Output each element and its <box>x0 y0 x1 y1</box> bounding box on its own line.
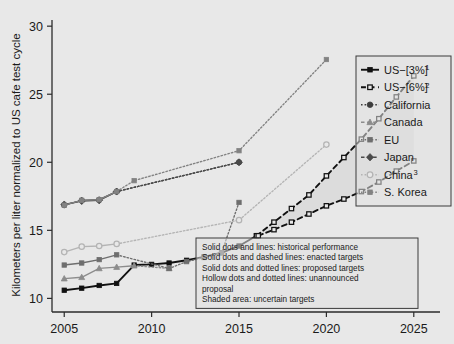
data-point-marker <box>289 206 293 210</box>
data-point-marker <box>80 286 84 290</box>
data-point-marker <box>237 200 241 204</box>
notes-line: Shaded area: uncertain targets <box>202 295 314 304</box>
data-point-marker <box>97 283 101 287</box>
series-line-segment <box>117 145 327 244</box>
notes-line: Solid dots and dashed lines: enacted tar… <box>202 253 363 262</box>
data-point-marker <box>132 178 136 182</box>
data-point-marker <box>324 174 328 178</box>
chart-figure: 101520253020052010201520202025Kilometers… <box>0 0 454 344</box>
data-point-marker <box>324 142 329 147</box>
data-point-marker <box>184 259 188 263</box>
data-point-marker <box>368 190 373 195</box>
x-tick-label: 2005 <box>50 322 78 336</box>
notes-line: proposal <box>202 285 234 294</box>
data-point-marker <box>368 137 373 142</box>
legend-item-label: China <box>384 169 414 181</box>
y-tick-label: 15 <box>29 224 43 238</box>
data-point-marker <box>367 172 373 178</box>
y-axis-title: Kilometers per liter normalized to US ca… <box>10 33 22 296</box>
data-point-marker <box>236 159 243 166</box>
data-point-marker <box>289 220 293 224</box>
data-point-marker <box>114 281 118 285</box>
data-point-marker <box>342 155 346 159</box>
data-point-marker <box>324 57 328 61</box>
legend-item-label: California <box>384 99 431 111</box>
legend-item-label: Canada <box>384 116 423 128</box>
data-point-marker <box>307 212 311 216</box>
legend-item-superscript-value: 2 <box>425 81 429 90</box>
data-point-marker <box>96 243 101 248</box>
legend-item-superscript-value: 1 <box>425 63 429 72</box>
data-point-marker <box>80 261 84 265</box>
legend-item-label: US−[6%] <box>384 81 428 93</box>
notes-line: Solid dots and dotted lines: proposed ta… <box>202 264 364 273</box>
data-point-marker <box>367 102 373 108</box>
notes-line: Hollow dots and dotted lines: unannounce… <box>202 274 359 283</box>
legend-item-superscript-value: 3 <box>414 168 418 177</box>
data-point-marker <box>97 198 101 202</box>
legend-item-label: Japan <box>384 151 414 163</box>
legend-item-label: US−[3%] <box>384 64 428 76</box>
fuel-economy-line-chart: 101520253020052010201520202025Kilometers… <box>0 0 454 344</box>
series-line-segment <box>64 192 116 206</box>
y-tick-label: 20 <box>29 156 43 170</box>
legend-item-label: EU <box>384 134 399 146</box>
x-tick-label: 2010 <box>138 322 166 336</box>
data-point-marker <box>114 189 118 193</box>
y-tick-label: 10 <box>29 292 43 306</box>
data-point-marker <box>342 197 346 201</box>
data-point-marker <box>62 249 67 254</box>
data-point-marker <box>167 266 171 270</box>
x-tick-label: 2025 <box>400 322 428 336</box>
data-point-marker <box>114 253 118 257</box>
legend-box <box>356 56 451 206</box>
data-point-marker <box>237 149 241 153</box>
y-tick-label: 30 <box>29 20 43 34</box>
data-point-marker <box>97 257 101 261</box>
data-point-marker <box>62 203 66 207</box>
series-s-korea <box>62 57 329 207</box>
data-point-marker <box>80 198 84 202</box>
data-point-marker <box>307 193 311 197</box>
data-point-marker <box>368 67 373 72</box>
data-point-marker <box>79 244 84 249</box>
series-line-segment <box>117 162 239 191</box>
data-point-marker <box>272 220 276 224</box>
legend: US−[3%]US−[3%]1US−[6%]US−[6%]2California… <box>356 56 451 206</box>
series-line-segment <box>64 244 116 252</box>
notes-line: Solid dots and lines: historical perform… <box>202 243 359 252</box>
data-point-marker <box>236 217 241 222</box>
series-line-segment <box>64 255 116 265</box>
legend-item-label: S. Korea <box>384 186 428 198</box>
data-point-marker <box>368 85 373 90</box>
data-point-marker <box>324 204 328 208</box>
data-point-marker <box>114 241 119 246</box>
x-tick-label: 2015 <box>225 322 253 336</box>
data-point-marker <box>62 288 66 292</box>
data-point-marker <box>272 227 276 231</box>
y-tick-label: 25 <box>29 88 43 102</box>
x-tick-label: 2020 <box>312 322 340 336</box>
data-point-marker <box>256 234 260 238</box>
notes-box: Solid dots and lines: historical perform… <box>196 238 418 308</box>
data-point-marker <box>62 263 66 267</box>
